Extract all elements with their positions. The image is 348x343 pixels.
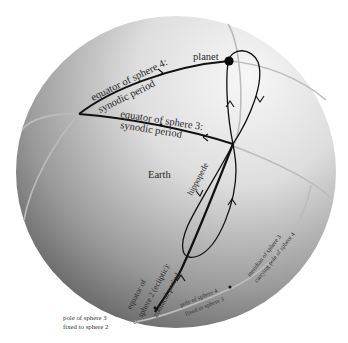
sphere-diagram: planet equator of sphere 4: synodic peri… bbox=[0, 0, 348, 343]
planet-dot bbox=[224, 56, 233, 65]
diagram-canvas: planet equator of sphere 4: synodic peri… bbox=[0, 0, 348, 343]
label-pole3-line2: fixed to sphere 2 bbox=[63, 322, 109, 331]
label-pole3: pole of sphere 3 fixed to sphere 2 bbox=[63, 313, 109, 331]
label-pole3-line1: pole of sphere 3 bbox=[63, 313, 109, 322]
label-earth: Earth bbox=[148, 169, 171, 180]
pole-sphere4-mark bbox=[229, 286, 232, 289]
label-planet: planet bbox=[193, 51, 219, 62]
